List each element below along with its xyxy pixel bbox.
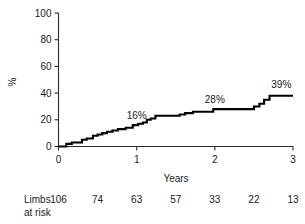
kaplan-meier-chart: 020406080100 0123 16%28%39% % Years Limb…	[0, 0, 305, 224]
risk-table-label-line1: Limbs	[24, 194, 51, 205]
x-tick-label-2: 2	[212, 154, 218, 165]
y-axis-ticks: 020406080100	[35, 8, 59, 153]
annotation-16pct: 16%	[127, 110, 147, 121]
x-tick-label-1: 1	[134, 154, 140, 165]
risk-value-6: 13	[287, 194, 299, 205]
y-tick-label-100: 100	[35, 8, 52, 19]
y-axis-label: %	[7, 77, 18, 86]
chart-canvas: 020406080100 0123 16%28%39% % Years Limb…	[0, 0, 305, 224]
risk-table-label-line2: at risk	[24, 207, 52, 218]
y-tick-label-20: 20	[40, 114, 52, 125]
risk-value-1: 74	[92, 194, 104, 205]
x-axis-ticks: 0123	[56, 147, 297, 165]
risk-value-2: 63	[131, 194, 143, 205]
y-axis-group: 020406080100	[35, 8, 59, 153]
risk-value-4: 33	[209, 194, 221, 205]
annotation-39pct: 39%	[271, 79, 291, 90]
x-axis-label: Years	[163, 173, 188, 184]
y-tick-label-60: 60	[40, 61, 52, 72]
x-tick-label-0: 0	[56, 154, 62, 165]
survival-step-curve	[59, 96, 294, 147]
risk-table: Limbs at risk 106746357332213	[24, 194, 299, 218]
risk-value-5: 22	[248, 194, 260, 205]
y-tick-label-0: 0	[46, 141, 52, 152]
y-tick-label-40: 40	[40, 88, 52, 99]
y-tick-label-80: 80	[40, 34, 52, 45]
risk-table-values: 106746357332213	[50, 194, 299, 205]
annotation-28pct: 28%	[205, 94, 225, 105]
risk-value-0: 106	[50, 194, 67, 205]
x-axis-group: 0123	[56, 147, 297, 165]
risk-value-3: 57	[170, 194, 182, 205]
x-tick-label-3: 3	[290, 154, 296, 165]
